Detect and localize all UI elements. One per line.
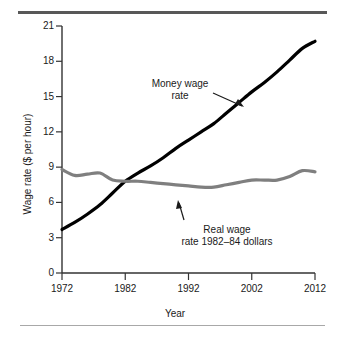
- x-axis-ticks: [62, 273, 315, 280]
- figure-container: Wage rate ($ per hour) Year Money wage r…: [0, 0, 344, 345]
- y-axis-ticks: [56, 26, 62, 273]
- y-tick-label: 6: [32, 196, 54, 207]
- series-line: [62, 41, 315, 229]
- real-wage-arrow-head: [176, 200, 182, 209]
- y-tick-label: 9: [32, 161, 54, 172]
- y-tick-label: 12: [32, 126, 54, 137]
- y-tick-label: 18: [32, 55, 54, 66]
- real-wage-annotation-line1: Real wage: [152, 224, 302, 236]
- x-tick-label: 1972: [42, 283, 82, 294]
- y-tick-label: 3: [32, 232, 54, 243]
- x-tick-label: 2012: [295, 283, 335, 294]
- real-wage-annotation: Real wage rate 1982–84 dollars: [152, 224, 302, 248]
- series-lines: [62, 41, 315, 229]
- x-tick-label: 1982: [105, 283, 145, 294]
- money-wage-annotation-line2: rate: [140, 90, 220, 102]
- x-axis-title: Year: [150, 308, 200, 319]
- x-tick-label: 1992: [169, 283, 209, 294]
- money-wage-annotation-line1: Money wage: [140, 78, 220, 90]
- annotation-arrows: [176, 93, 244, 220]
- series-line: [62, 170, 315, 188]
- real-wage-annotation-line2: rate 1982–84 dollars: [152, 236, 302, 248]
- bottom-divider-rule: [20, 325, 325, 326]
- y-tick-label: 15: [32, 91, 54, 102]
- y-tick-label: 0: [32, 267, 54, 278]
- money-wage-annotation: Money wage rate: [140, 78, 220, 102]
- y-tick-label: 21: [32, 20, 54, 31]
- x-tick-label: 2002: [232, 283, 272, 294]
